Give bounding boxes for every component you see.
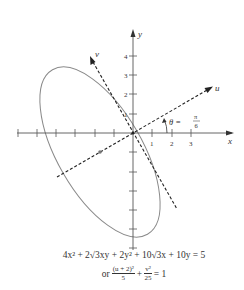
fraction-v-denominator: 25 xyxy=(145,274,152,282)
y-tick-label-3: 3 xyxy=(124,72,128,80)
theta-label: θ = xyxy=(169,117,181,127)
x-tick-label-1: 1 xyxy=(150,140,154,148)
y-tick-label-4: 4 xyxy=(124,53,128,61)
theta-arc xyxy=(162,118,167,133)
rotated-ellipse-diagram: x y u v 1 2 3 1 2 3 4 θ = π 6 xyxy=(0,0,244,290)
theta-denominator: 6 xyxy=(195,122,199,129)
equation-general-form: 4x² + 2√3xy + 2y² + 10√3x + 10y = 5 xyxy=(12,250,244,260)
v-axis-label: v xyxy=(95,49,99,59)
x-axis xyxy=(17,129,234,137)
x-axis-label: x xyxy=(227,136,232,146)
equation-or: or xyxy=(102,269,110,279)
fraction-v-numerator: v² xyxy=(144,265,152,274)
equation-rhs: = 1 xyxy=(154,269,166,279)
u-axis-label: u xyxy=(215,83,220,93)
equation-plus: + xyxy=(137,269,142,279)
fraction-v: v² 25 xyxy=(144,265,152,282)
x-tick-label-2: 2 xyxy=(170,140,174,148)
y-axis xyxy=(129,29,137,250)
u-axis-dashed xyxy=(57,87,213,178)
y-tick-label-2: 2 xyxy=(124,91,128,99)
y-tick-label-1: 1 xyxy=(124,111,128,119)
ellipse-center-dot xyxy=(98,150,102,154)
fraction-u: (u + 2)² 5 xyxy=(112,265,135,282)
equation-standard-form: or (u + 2)² 5 + v² 25 = 1 xyxy=(12,265,244,282)
origin-dot xyxy=(132,132,135,135)
fraction-u-denominator: 5 xyxy=(121,274,125,282)
y-axis-label: y xyxy=(137,29,142,39)
theta-numerator: π xyxy=(194,113,198,120)
fraction-u-numerator: (u + 2)² xyxy=(112,265,135,274)
x-tick-label-3: 3 xyxy=(189,140,193,148)
